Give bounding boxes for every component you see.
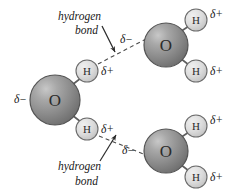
caption-lower-line1: hydrogen	[58, 160, 101, 173]
hydrogen-label-bottom-right-lower: H	[192, 171, 200, 183]
charge-label-oxygen-bottom-right: δ−	[122, 144, 135, 156]
charge-label-hydrogen-top-right-upper: δ+	[210, 8, 223, 20]
hydrogen-label-left-lower: H	[83, 123, 91, 135]
oxygen-label-left: O	[49, 91, 61, 110]
caption-upper-line1: hydrogen	[58, 10, 101, 23]
hydrogen-bond-lines	[98, 39, 146, 155]
charge-label-hydrogen-left-upper: δ+	[101, 65, 114, 77]
charge-label-hydrogen-bottom-right-upper: δ+	[210, 114, 223, 126]
hydrogen-label-top-right-lower: H	[192, 65, 200, 77]
hydrogen-label-top-right-upper: H	[192, 14, 200, 26]
pointer-arrow-upper	[102, 26, 115, 52]
hydrogen-bond-diagram: O H H O H H O H H δ− δ+	[0, 0, 228, 194]
charge-label-oxygen-left: δ−	[14, 93, 27, 105]
caption-pointer-group	[100, 26, 116, 161]
caption-lower-line2: bond	[75, 175, 98, 187]
diagram-canvas: O H H O H H O H H δ− δ+	[0, 0, 228, 194]
charge-label-hydrogen-top-right-lower: δ+	[210, 65, 223, 77]
water-molecule-top-right: O H H	[144, 9, 207, 82]
caption-upper-line2: bond	[75, 24, 98, 36]
hydrogen-label-bottom-right-upper: H	[192, 120, 200, 132]
hydrogen-label-left-upper: H	[83, 65, 91, 77]
water-molecule-left: O H H	[30, 60, 98, 140]
water-molecule-bottom-right: O H H	[144, 115, 207, 188]
oxygen-label-top-right: O	[160, 36, 172, 55]
oxygen-label-bottom-right: O	[160, 142, 172, 161]
charge-label-oxygen-top-right: δ−	[120, 33, 133, 45]
charge-label-hydrogen-bottom-right-lower: δ+	[210, 171, 223, 183]
charge-label-hydrogen-left-lower: δ+	[101, 123, 114, 135]
pointer-arrow-lower	[100, 135, 116, 161]
